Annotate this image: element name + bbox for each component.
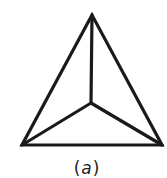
tetrahedron-diagram: [0, 0, 167, 178]
edge-apex-center: [91, 15, 92, 103]
label-letter: a: [81, 158, 92, 178]
label-paren-close: ): [93, 158, 101, 178]
figure-label: (a): [0, 158, 167, 178]
